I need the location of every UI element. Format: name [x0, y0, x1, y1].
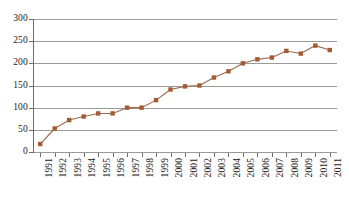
data-point-marker [125, 105, 129, 109]
data-point-marker [197, 83, 201, 87]
y-axis-tick-mark [29, 108, 33, 109]
y-axis-tick-mark [29, 41, 33, 42]
data-point-marker [139, 105, 143, 109]
data-point-marker [154, 98, 158, 102]
data-point-marker [328, 48, 332, 52]
data-series-layer [0, 0, 349, 215]
y-axis-tick-mark [29, 86, 33, 87]
data-point-marker [212, 75, 216, 79]
data-point-marker [226, 69, 230, 73]
y-axis-tick-mark [29, 19, 33, 20]
data-point-marker [255, 57, 259, 61]
data-point-marker [183, 84, 187, 88]
y-axis-tick-mark [29, 152, 33, 153]
data-point-marker [270, 55, 274, 59]
data-point-marker [53, 126, 57, 130]
data-point-marker [299, 51, 303, 55]
data-point-marker [313, 43, 317, 47]
data-point-marker [38, 142, 42, 146]
data-point-marker [168, 87, 172, 91]
data-point-marker [110, 111, 114, 115]
line-chart: 050100150200250300 199119921993199419951… [0, 0, 349, 215]
data-point-marker [96, 111, 100, 115]
series-line [40, 46, 330, 144]
data-point-marker [81, 114, 85, 118]
data-point-marker [241, 61, 245, 65]
y-axis-tick-mark [29, 130, 33, 131]
data-point-marker [284, 49, 288, 53]
data-point-marker [67, 118, 71, 122]
y-axis-tick-mark [29, 63, 33, 64]
series-markers [38, 43, 332, 146]
